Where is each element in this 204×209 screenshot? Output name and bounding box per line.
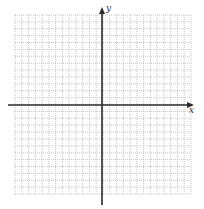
y-axis-arrow-icon bbox=[99, 7, 105, 14]
x-axis-label: x bbox=[189, 106, 194, 115]
y-axis-label: y bbox=[106, 4, 111, 13]
coordinate-plane bbox=[0, 0, 204, 209]
